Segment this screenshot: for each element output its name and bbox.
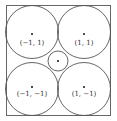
center-point [57,60,59,62]
center-point [83,33,85,35]
top-left-circle: (−1, 1) [6,6,59,59]
circles-in-square-diagram: (−1, 1) (1, 1) (−1, −1) (1, −1) [0,0,117,121]
top-right-circle: (1, 1) [58,6,111,59]
coordinate-label: (1, −1) [72,90,97,98]
center-circle [48,51,68,71]
center-point [83,86,85,88]
coordinate-label: (−1, 1) [20,39,45,47]
coordinate-label: (−1, −1) [17,90,48,98]
center-point [31,33,33,35]
center-point [31,86,33,88]
bottom-left-circle: (−1, −1) [6,63,59,116]
coordinate-label: (1, 1) [75,39,94,47]
bottom-right-circle: (1, −1) [58,63,111,116]
